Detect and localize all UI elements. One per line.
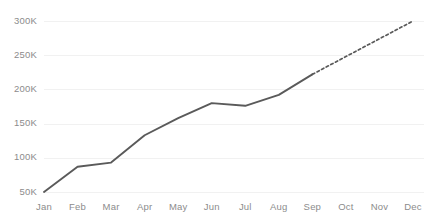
x-axis-tick-label: Apr [137,201,152,212]
x-axis-tick-label: Sep [304,201,322,212]
chart-canvas: 50K100K150K200K250K300K JanFebMarAprMayJ… [0,0,429,224]
x-axis-tick-label: Jun [204,201,220,212]
x-axis-tick-labels: JanFebMarAprMayJunJulAugSepOctNovDec [36,201,422,212]
x-axis-tick-label: Aug [270,201,288,212]
series-line-forecast [312,21,413,74]
x-axis-tick-label: Jan [36,201,52,212]
series-line-actual [44,74,312,192]
gridlines [44,22,424,193]
x-axis-tick-label: May [169,201,188,212]
y-axis-tick-label: 250K [14,49,37,60]
y-axis-tick-labels: 50K100K150K200K250K300K [14,15,37,197]
x-axis-tick-label: Dec [404,201,422,212]
y-axis-tick-label: 100K [14,151,37,162]
x-axis-tick-label: Oct [338,201,354,212]
y-axis-tick-label: 150K [14,117,37,128]
y-axis-tick-label: 300K [14,15,37,26]
x-axis-tick-label: Jul [239,201,252,212]
y-axis-tick-label: 200K [14,83,37,94]
y-axis-tick-label: 50K [19,186,37,197]
line-chart: 50K100K150K200K250K300K JanFebMarAprMayJ… [0,0,429,224]
x-axis-tick-label: Feb [69,201,86,212]
x-axis-tick-label: Mar [103,201,120,212]
x-axis-tick-label: Nov [371,201,389,212]
